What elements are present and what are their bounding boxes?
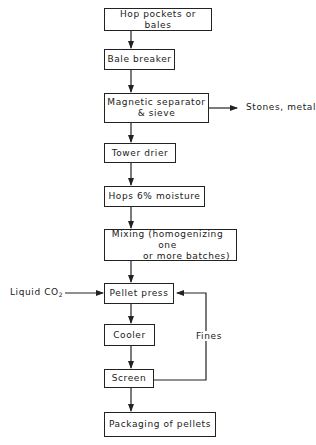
node-label: Hops 6% moisture [108,191,200,202]
node-label: Screen [112,373,147,384]
node-label-line1: Mixing (homogenizing one [105,229,230,251]
node-bale-breaker: Bale breaker [104,49,175,70]
node-hops-moisture: Hops 6% moisture [104,186,205,207]
node-mixing: Mixing (homogenizing one or more batches… [104,229,237,261]
node-magnetic-separator: Magnetic separator & sieve [104,93,209,123]
node-tower-drier: Tower drier [104,143,176,163]
node-pellet-press: Pellet press [104,283,174,304]
node-screen: Screen [104,369,154,388]
node-label-line2: or more batches) [143,251,230,262]
node-hop-pockets: Hop pockets or bales [104,8,212,31]
node-label-line1: Magnetic separator [107,97,205,108]
node-packaging: Packaging of pellets [104,412,216,437]
stones-metal-label: Stones, metal [246,102,316,112]
fines-label: Fines [195,331,223,341]
liquid-co2-label: Liquid CO2 [10,287,63,298]
node-label-line2: & sieve [138,108,176,119]
node-label: Hop pockets or bales [105,9,211,31]
liquid-co2-subscript: 2 [59,291,63,298]
node-label: Pellet press [110,288,169,299]
node-cooler: Cooler [104,324,155,346]
node-label: Packaging of pellets [109,419,211,430]
node-label: Tower drier [112,148,169,159]
liquid-co2-text: Liquid CO [10,287,59,297]
node-label: Cooler [113,330,146,341]
node-label: Bale breaker [107,54,171,65]
